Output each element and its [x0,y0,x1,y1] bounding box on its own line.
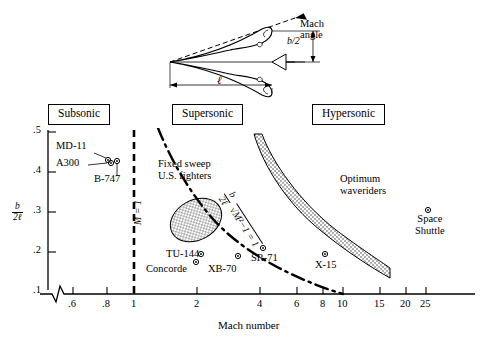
y-tick-label-0.1: .1 [33,284,41,295]
x-tick-label-1: 1 [131,298,136,309]
waverider-line1: Optimum [340,173,380,184]
category-box-hypersonic: Hypersonic [312,104,385,125]
half-span-label: b/2 [287,35,300,46]
mach-angle-line2: angle [300,29,323,40]
mach-angle-label: Mach angle [300,18,324,41]
leader-md11 [94,153,106,158]
x-tick-label-6: 6 [294,298,299,309]
wing-lower-notch [257,77,262,81]
region-label-optimum-waveriders: Optimum waveriders [340,173,386,197]
fixed-sweep-line1: Fixed sweep [158,158,211,169]
space-shuttle-line2: Shuttle [415,225,445,236]
planform-diagram [0,0,485,100]
figure-root: Mach angle b/2 ℓ Subsonic Supersonic Hyp… [0,0,485,349]
x-axis-title: Mach number [218,319,279,331]
x-tick-label-20: 20 [400,298,411,309]
x-tick-label-2: 2 [194,298,199,309]
mach-one-label: M = 1 [132,200,143,225]
fixed-sweep-line2: U.S. fighters [158,170,211,181]
b2-arrow-down [311,56,316,62]
leader-a300 [88,163,107,165]
x-tick-label-0.6: .6 [68,298,76,309]
x-tick-label-10: 10 [337,298,348,309]
space-shuttle-line1: Space [417,213,442,224]
y-tick-label-0.4: .4 [33,164,41,175]
point-label-tu-144: TU-144 [166,248,199,260]
point-label-b-747: B-747 [94,173,120,185]
ell-arrow-left [170,83,177,88]
y-tick-label-0.3: .3 [33,204,41,215]
point-label-md-11: MD-11 [56,140,87,152]
x-tick-label-8: 8 [320,298,325,309]
point-label-x-15: X-15 [315,259,337,271]
point-label-space-shuttle: Space Shuttle [415,213,445,236]
x-tick-label-25: 25 [420,298,431,309]
tail-fin [272,54,286,70]
y-axis-title: b 2ℓ [12,202,23,223]
wing-upper-notch [257,42,262,46]
category-box-supersonic: Supersonic [172,104,243,125]
y-axis-title-denominator: 2ℓ [12,213,23,223]
mach-angle-dashed-line [170,18,295,62]
point-label-concorde: Concorde [146,263,187,275]
x-tick-label-15: 15 [374,298,385,309]
category-box-subsonic: Subsonic [48,104,110,125]
mach-angle-line1: Mach [300,18,324,29]
x-tick-label-4: 4 [257,298,262,309]
y-tick-label-0.2: .2 [33,244,41,255]
point-label-a300: A300 [56,157,79,169]
point-label-sr-71: SR-71 [251,252,278,264]
waverider-line2: waveriders [340,185,386,196]
region-label-fixed-sweep: Fixed sweep U.S. fighters [158,158,211,182]
y-tick-label-0.5: .5 [33,124,41,135]
point-label-xb-70: XB-70 [208,263,237,275]
x-tick-label-0.8: .8 [102,298,110,309]
length-label: ℓ [217,74,222,86]
